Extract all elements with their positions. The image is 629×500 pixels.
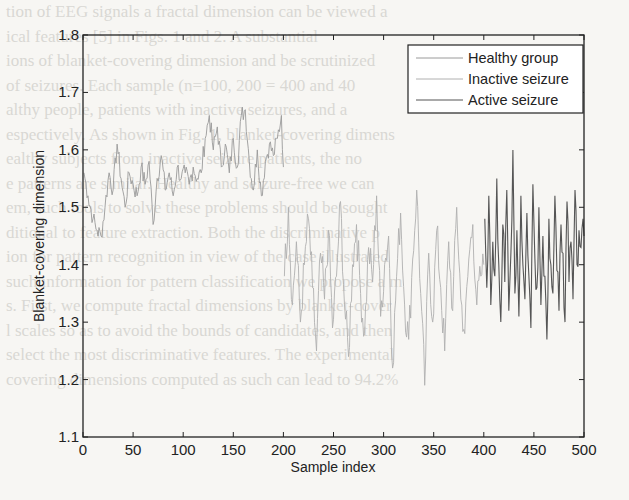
series-layer	[84, 107, 584, 385]
x-tick-label: 500	[571, 441, 596, 458]
y-tick-label: 1.6	[58, 141, 79, 158]
series-line-healthy-group	[84, 107, 283, 237]
legend-label-active: Active seizure	[468, 92, 558, 108]
y-tick-label: 1.2	[58, 371, 79, 388]
y-tick-label: 1.5	[58, 198, 79, 215]
x-tick-label: 400	[471, 441, 496, 458]
x-axis-label: Sample index	[291, 459, 376, 475]
x-tick-label: 350	[421, 441, 446, 458]
x-tick-label: 150	[221, 441, 246, 458]
y-tick-label: 1.1	[58, 428, 79, 445]
y-tick-label: 1.7	[58, 83, 79, 100]
legend: Healthy group Inactive seizure Active se…	[408, 45, 583, 113]
legend-label-inactive: Inactive seizure	[468, 71, 569, 87]
x-tick-label: 0	[79, 441, 87, 458]
legend-label-healthy: Healthy group	[468, 50, 558, 66]
x-tick-label: 200	[271, 441, 296, 458]
line-chart: 050100150200250300350400450500 1.11.21.3…	[0, 0, 629, 500]
y-tick-label: 1.4	[58, 256, 79, 273]
series-line-inactive-seizure	[284, 190, 483, 385]
series-line-active-seizure	[485, 150, 584, 340]
y-tick-label: 1.8	[58, 26, 79, 43]
y-axis-label: Blanket-covering dimension	[31, 150, 47, 322]
y-tick-label: 1.3	[58, 313, 79, 330]
x-tick-label: 100	[171, 441, 196, 458]
x-tick-label: 50	[125, 441, 142, 458]
x-tick-label: 300	[371, 441, 396, 458]
x-tick-label: 450	[521, 441, 546, 458]
x-tick-label: 250	[321, 441, 346, 458]
